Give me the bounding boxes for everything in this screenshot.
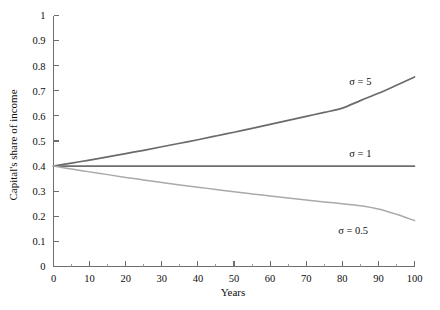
y-tick-label: 0.5 xyxy=(32,136,45,147)
y-tick-label: 0.2 xyxy=(32,211,45,222)
y-tick-label: 0.8 xyxy=(32,61,45,72)
series-label-sigma-5: σ = 5 xyxy=(349,76,371,87)
x-axis-title: Years xyxy=(221,286,246,298)
x-tick-label: 40 xyxy=(193,273,204,284)
y-tick-label: 0 xyxy=(40,261,45,272)
series-label-sigma-1: σ = 1 xyxy=(349,148,371,159)
x-tick-label: 70 xyxy=(301,273,312,284)
x-tick-label: 100 xyxy=(407,273,423,284)
x-tick-label: 90 xyxy=(373,273,384,284)
x-tick-label: 10 xyxy=(84,273,95,284)
series-label-sigma-0-5: σ = 0.5 xyxy=(338,225,368,236)
y-tick-label: 0.7 xyxy=(32,86,45,97)
chart-figure: 010203040506070809010000.10.20.30.40.50.… xyxy=(0,0,440,310)
y-tick-label: 0.6 xyxy=(32,111,45,122)
line-chart-canvas: 010203040506070809010000.10.20.30.40.50.… xyxy=(0,0,440,310)
y-axis-title: Capital's share of income xyxy=(7,89,19,200)
y-tick-label: 0.1 xyxy=(32,236,45,247)
y-tick-label: 0.4 xyxy=(32,161,46,172)
x-tick-label: 0 xyxy=(51,273,56,284)
x-tick-label: 60 xyxy=(265,273,276,284)
series-labels-group: σ = 5σ = 1σ = 0.5 xyxy=(338,76,371,237)
y-tick-label: 0.3 xyxy=(32,186,45,197)
y-tick-label: 1 xyxy=(40,10,45,21)
x-tick-label: 20 xyxy=(120,273,131,284)
x-tick-label: 30 xyxy=(157,273,168,284)
x-tick-label: 80 xyxy=(337,273,348,284)
series-line-sigma-0-5 xyxy=(54,166,415,220)
x-tick-label: 50 xyxy=(229,273,240,284)
y-tick-label: 0.9 xyxy=(32,35,45,46)
tick-labels-group: 010203040506070809010000.10.20.30.40.50.… xyxy=(32,10,422,283)
